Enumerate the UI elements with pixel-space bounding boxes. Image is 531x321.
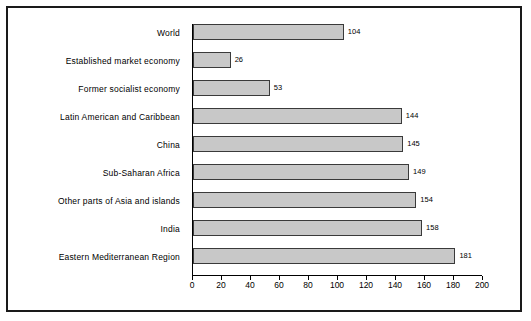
category-label: World (157, 28, 180, 38)
x-axis-tick-label: 20 (216, 280, 225, 290)
category-label: Latin American and Caribbean (60, 112, 180, 122)
category-axis-labels: World Established market economy Former … (8, 24, 186, 276)
category-label: Established market economy (66, 56, 180, 66)
x-axis-tick-label: 180 (446, 280, 460, 290)
bar-china (193, 136, 403, 152)
bar-latin-american-and-caribbean (193, 108, 402, 124)
bar-value-label: 26 (235, 55, 243, 64)
bar-value-label: 53 (274, 83, 282, 92)
bar-value-label: 149 (413, 167, 426, 176)
category-label: China (157, 140, 180, 150)
category-label: Sub-Saharan Africa (103, 168, 180, 178)
plot-area: 104 26 53 144 145 149 154 158 181 (192, 24, 482, 276)
bar-value-label: 181 (459, 251, 472, 260)
category-label: India (161, 224, 180, 234)
bar-india (193, 220, 422, 236)
x-axis-tick-label: 40 (245, 280, 254, 290)
x-axis-tick-label: 120 (359, 280, 373, 290)
bar-world (193, 24, 344, 40)
bar-value-label: 104 (348, 27, 361, 36)
bar-value-label: 144 (406, 111, 419, 120)
x-axis-tick-label: 160 (417, 280, 431, 290)
x-axis-tick-label: 80 (303, 280, 312, 290)
chart-frame: World Established market economy Former … (6, 6, 522, 312)
x-axis-tick-label: 60 (274, 280, 283, 290)
bar-eastern-mediterranean-region (193, 248, 455, 264)
chart-plot-wrapper: World Established market economy Former … (8, 8, 520, 310)
category-label: Other parts of Asia and islands (58, 196, 180, 206)
bar-value-label: 145 (407, 139, 420, 148)
x-axis-tick-label: 0 (190, 280, 195, 290)
bar-other-parts-of-asia-and-islands (193, 192, 416, 208)
bar-value-label: 158 (426, 223, 439, 232)
bar-value-label: 154 (420, 195, 433, 204)
x-axis-tick-label: 140 (388, 280, 402, 290)
x-axis-tick-label: 100 (330, 280, 344, 290)
category-label: Former socialist economy (78, 84, 180, 94)
x-axis-tick-label: 200 (475, 280, 489, 290)
bar-established-market-economy (193, 52, 231, 68)
category-label: Eastern Mediterranean Region (59, 252, 180, 262)
bar-former-socialist-economy (193, 80, 270, 96)
bar-sub-saharan-africa (193, 164, 409, 180)
x-axis: 0 20 40 60 80 100 120 140 160 180 200 (192, 276, 482, 296)
